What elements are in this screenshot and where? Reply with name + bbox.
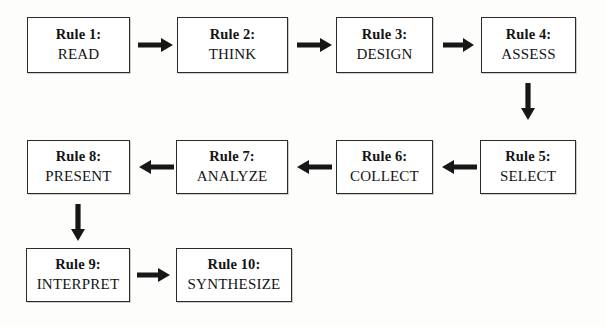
node-rule5-label: Rule 5: [505,149,550,164]
arrow-rule5-to-rule6 [441,159,477,175]
node-rule3-label: Rule 3: [362,27,407,42]
node-rule1[interactable]: Rule 1: READ [27,17,130,73]
node-rule10-label: Rule 10: [208,257,261,272]
node-rule2-label: Rule 2: [210,27,255,42]
node-rule7-label: Rule 7: [209,149,254,164]
node-rule7[interactable]: Rule 7: ANALYZE [176,140,288,194]
arrow-rule9-to-rule10 [137,267,171,283]
arrow-rule7-to-rule8 [138,159,174,175]
flowchart-canvas: Rule 1: READ Rule 2: THINK Rule 3: DESIG… [0,0,605,327]
node-rule10-action: SYNTHESIZE [188,277,281,293]
node-rule9-label: Rule 9: [55,257,100,272]
node-rule2-action: THINK [209,47,257,63]
node-rule1-label: Rule 1: [56,27,101,42]
node-rule9[interactable]: Rule 9: INTERPRET [26,248,130,302]
node-rule8[interactable]: Rule 8: PRESENT [27,140,130,194]
arrow-rule3-to-rule4 [443,37,475,53]
node-rule3-action: DESIGN [356,47,412,63]
arrow-rule6-to-rule7 [296,159,332,175]
arrow-rule1-to-rule2 [138,37,174,53]
node-rule1-action: READ [58,47,100,63]
node-rule4[interactable]: Rule 4: ASSESS [481,17,576,73]
node-rule10[interactable]: Rule 10: SYNTHESIZE [176,248,292,302]
node-rule9-action: INTERPRET [37,277,120,293]
arrow-rule4-to-rule5 [520,83,536,121]
node-rule8-action: PRESENT [45,169,111,185]
arrow-rule2-to-rule3 [297,37,333,53]
node-rule5-action: SELECT [500,169,556,185]
node-rule8-label: Rule 8: [56,149,101,164]
node-rule2[interactable]: Rule 2: THINK [177,17,288,73]
node-rule6-label: Rule 6: [362,149,407,164]
node-rule7-action: ANALYZE [197,169,268,185]
node-rule5[interactable]: Rule 5: SELECT [480,140,576,194]
node-rule4-action: ASSESS [501,47,556,63]
node-rule4-label: Rule 4: [506,27,551,42]
node-rule6-action: COLLECT [350,169,419,185]
arrow-rule8-to-rule9 [70,204,86,242]
node-rule3[interactable]: Rule 3: DESIGN [336,17,433,73]
node-rule6[interactable]: Rule 6: COLLECT [336,140,433,194]
